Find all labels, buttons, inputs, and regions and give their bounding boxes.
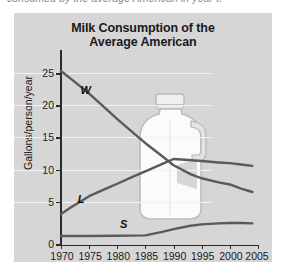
clipped-caption-text: consumed by the average American in year… [0,0,285,5]
chart-panel: Milk Consumption of the Average American… [14,13,272,262]
clipped-caption: consumed by the average American in year… [0,0,285,5]
series-line-S [61,223,252,236]
series-label-W: W [81,84,91,96]
series-line-L [61,159,252,214]
series-label-L: L [78,193,85,205]
data-curves [14,13,272,262]
series-label-S: S [120,218,127,230]
